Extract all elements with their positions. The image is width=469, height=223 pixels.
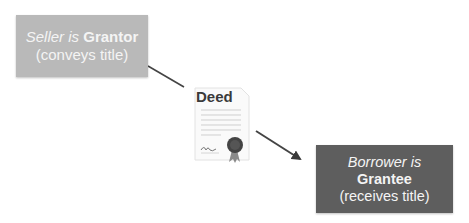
grantor-role: Grantor: [83, 28, 138, 45]
grantee-role: Grantee: [357, 171, 412, 188]
deed-title: Deed: [196, 88, 233, 105]
grantee-role-prefix: Borrower is: [348, 154, 421, 171]
grantor-box: Seller is Grantor (conveys title): [16, 15, 148, 77]
grantee-action: (receives title): [339, 188, 429, 205]
grantor-role-prefix: Seller is: [26, 28, 79, 45]
grantor-role-line: Seller is Grantor: [26, 28, 139, 46]
arrow-deed-to-grantee: [256, 131, 300, 159]
grantee-box: Borrower is Grantee (receives title): [316, 145, 453, 213]
grantor-action: (conveys title): [36, 46, 129, 64]
connector-grantor-to-deed: [148, 66, 184, 87]
